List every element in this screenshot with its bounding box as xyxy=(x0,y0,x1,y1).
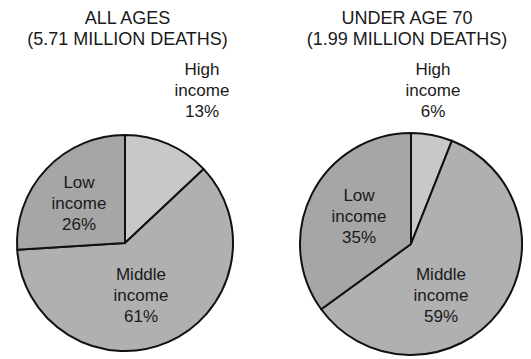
label-line: Low xyxy=(332,185,387,206)
label-value: 13% xyxy=(175,101,230,122)
slice-label-high-income-all-ages: High income 13% xyxy=(175,59,230,122)
label-line: High xyxy=(406,59,461,80)
label-value: 61% xyxy=(114,306,169,327)
label-line: income xyxy=(332,206,387,227)
label-value: 35% xyxy=(332,227,387,248)
label-line: income xyxy=(175,80,230,101)
slice-label-middle-income-all-ages: Middle income 61% xyxy=(114,264,169,327)
label-value: 26% xyxy=(52,214,107,235)
label-line: income xyxy=(114,285,169,306)
slice-label-middle-income-under-70: Middle income 59% xyxy=(414,264,469,327)
slice-label-high-income-under-70: High income 6% xyxy=(406,59,461,122)
label-line: Middle xyxy=(414,264,469,285)
label-line: income xyxy=(414,285,469,306)
label-value: 6% xyxy=(406,101,461,122)
label-line: income xyxy=(406,80,461,101)
label-line: Middle xyxy=(114,264,169,285)
label-value: 59% xyxy=(414,306,469,327)
label-line: High xyxy=(175,59,230,80)
label-line: income xyxy=(52,193,107,214)
label-line: Low xyxy=(52,172,107,193)
slice-label-low-income-all-ages: Low income 26% xyxy=(52,172,107,235)
slice-label-low-income-under-70: Low income 35% xyxy=(332,185,387,248)
